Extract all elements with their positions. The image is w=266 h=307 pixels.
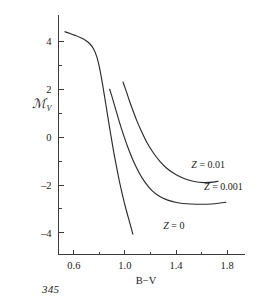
series-label-value: = 0: [169, 220, 185, 231]
page-number: 345: [42, 283, 59, 295]
y-tick-label: 0: [46, 132, 51, 143]
figure-container: –4–20240.61.01.41.8 Z = 0Z = 0.001Z = 0.…: [0, 0, 266, 307]
series-annotations: Z = 0Z = 0.001Z = 0.01: [163, 159, 243, 232]
tick-marks: [59, 41, 228, 254]
tick-labels: –4–20240.61.01.41.8: [40, 36, 234, 271]
y-tick-label: 2: [46, 84, 51, 95]
y-tick-label: –4: [40, 228, 52, 239]
y-tick-label: –2: [40, 180, 52, 191]
x-tick-label: 1.0: [118, 260, 131, 271]
x-axis-title: B−V: [136, 275, 157, 286]
axes: [59, 15, 246, 255]
data-curves: [65, 32, 226, 234]
series-label-value: = 0.001: [210, 181, 243, 192]
x-tick-label: 1.8: [221, 260, 234, 271]
y-axis-title-subscript: V: [47, 104, 53, 113]
series-label-1: Z = 0.001: [204, 181, 243, 192]
x-tick-label: 1.4: [169, 260, 183, 271]
series-label-0: Z = 0: [163, 220, 184, 231]
y-tick-label: 4: [46, 36, 52, 47]
plot-area: –4–20240.61.01.41.8 Z = 0Z = 0.001Z = 0.…: [0, 0, 266, 307]
series-label-2: Z = 0.01: [191, 159, 225, 170]
series-label-value: = 0.01: [197, 159, 225, 170]
y-axis-title: ℳV: [32, 96, 53, 113]
x-tick-label: 0.6: [67, 260, 80, 271]
